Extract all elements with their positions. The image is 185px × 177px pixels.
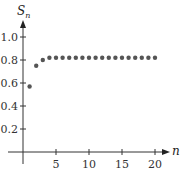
data-point (93, 56, 97, 60)
data-point (146, 56, 150, 60)
axes (8, 20, 170, 164)
data-point (107, 56, 111, 60)
y-axis-ticks: 0.20.40.60.81.0 (1, 31, 27, 136)
y-axis-arrow-icon (20, 20, 26, 28)
data-point (140, 56, 144, 60)
data-point (87, 56, 91, 60)
y-tick-label: 0.2 (1, 123, 19, 136)
y-tick-label: 1.0 (1, 31, 19, 44)
y-tick-label: 0.8 (1, 54, 19, 67)
data-point (34, 64, 38, 68)
x-tick-label: 20 (148, 158, 162, 171)
y-axis-label-sub: n (25, 11, 30, 20)
data-point (67, 56, 71, 60)
x-axis-arrow-icon (162, 149, 170, 155)
data-point (126, 56, 130, 60)
data-point (74, 56, 78, 60)
x-tick-label: 10 (82, 158, 96, 171)
data-point (41, 58, 45, 62)
data-point (27, 84, 31, 88)
y-tick-label: 0.4 (1, 100, 19, 113)
x-axis-label: n (172, 144, 180, 158)
data-points (27, 56, 157, 89)
y-axis-label-main: S (17, 4, 25, 18)
data-point (47, 56, 51, 60)
data-point (60, 56, 64, 60)
data-point (153, 56, 157, 60)
data-point (80, 56, 84, 60)
data-point (133, 56, 137, 60)
x-tick-label: 15 (115, 158, 129, 171)
x-tick-label: 5 (53, 158, 60, 171)
y-tick-label: 0.6 (1, 77, 19, 90)
data-point (113, 56, 117, 60)
scatter-chart: 0.20.40.60.81.0 5101520 Sn n (0, 0, 185, 177)
data-point (100, 56, 104, 60)
y-axis-label: Sn (17, 4, 30, 20)
data-point (54, 56, 58, 60)
data-point (120, 56, 124, 60)
